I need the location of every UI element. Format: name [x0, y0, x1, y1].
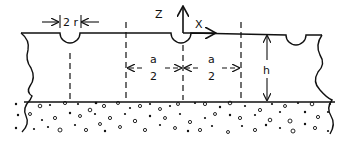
x-axis-label: X: [195, 18, 203, 31]
z-axis-label: Z: [155, 8, 163, 21]
half-spacing-right-num: a: [208, 53, 215, 66]
thickness-label: h: [263, 64, 270, 77]
width-label: 2 r: [63, 16, 78, 29]
half-spacing-left-num: a: [150, 53, 157, 66]
half-spacing-right-den: 2: [208, 70, 215, 83]
left-break-line: [21, 33, 33, 132]
slab-top-surface: [21, 33, 322, 45]
slab-notch-diagram: 2 r Z X a 2 a 2 h: [0, 0, 351, 141]
right-break-line: [315, 35, 333, 134]
granular-substrate: [15, 101, 331, 133]
half-spacing-left-den: 2: [150, 70, 157, 83]
